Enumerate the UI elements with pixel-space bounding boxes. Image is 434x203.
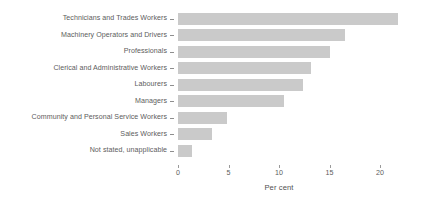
bar-row bbox=[178, 28, 380, 45]
bar-row bbox=[178, 77, 380, 94]
category-label: Managers bbox=[0, 97, 167, 105]
bar-row bbox=[178, 44, 380, 61]
bar-row bbox=[178, 11, 380, 28]
value-tick-label: 15 bbox=[326, 169, 334, 178]
category-label: Technicians and Trades Workers bbox=[0, 14, 167, 22]
bar-series bbox=[178, 11, 380, 163]
plot-area bbox=[178, 11, 380, 163]
category-label: Machinery Operators and Drivers bbox=[0, 31, 167, 39]
bar-chart: 05101520 Per cent Technicians and Trades… bbox=[0, 0, 434, 203]
category-label: Labourers bbox=[0, 80, 167, 88]
bar bbox=[178, 62, 311, 74]
value-tick-mark bbox=[380, 165, 381, 168]
bar-row bbox=[178, 94, 380, 111]
value-tick-label: 0 bbox=[176, 169, 180, 178]
category-label: Sales Workers bbox=[0, 130, 167, 138]
category-tick-mark bbox=[170, 151, 174, 152]
bar bbox=[178, 46, 330, 58]
category-label: Professionals bbox=[0, 47, 167, 55]
x-axis-title: Per cent bbox=[178, 183, 380, 192]
bar bbox=[178, 29, 345, 41]
value-tick-label: 10 bbox=[275, 169, 283, 178]
value-tick-label: 5 bbox=[227, 169, 231, 178]
bar bbox=[178, 13, 398, 25]
bar bbox=[178, 128, 212, 140]
value-tick-mark bbox=[178, 165, 179, 168]
category-tick-mark bbox=[170, 134, 174, 135]
category-tick-mark bbox=[170, 118, 174, 119]
value-tick-mark bbox=[279, 165, 280, 168]
category-tick-mark bbox=[170, 19, 174, 20]
bar bbox=[178, 112, 227, 124]
bar bbox=[178, 79, 303, 91]
category-tick-mark bbox=[170, 101, 174, 102]
bar-row bbox=[178, 61, 380, 78]
value-tick-mark bbox=[229, 165, 230, 168]
category-tick-mark bbox=[170, 68, 174, 69]
bar-row bbox=[178, 110, 380, 127]
value-axis: 05101520 bbox=[178, 165, 380, 181]
bar-row bbox=[178, 143, 380, 160]
bar bbox=[178, 145, 192, 157]
value-tick-mark bbox=[330, 165, 331, 168]
category-label: Community and Personal Service Workers bbox=[0, 113, 167, 121]
category-label: Not stated, unapplicable bbox=[0, 146, 167, 154]
value-tick-label: 20 bbox=[376, 169, 384, 178]
category-label: Clerical and Administrative Workers bbox=[0, 64, 167, 72]
bar-row bbox=[178, 127, 380, 144]
category-tick-mark bbox=[170, 35, 174, 36]
category-tick-mark bbox=[170, 52, 174, 53]
bar bbox=[178, 95, 284, 107]
category-tick-mark bbox=[170, 85, 174, 86]
